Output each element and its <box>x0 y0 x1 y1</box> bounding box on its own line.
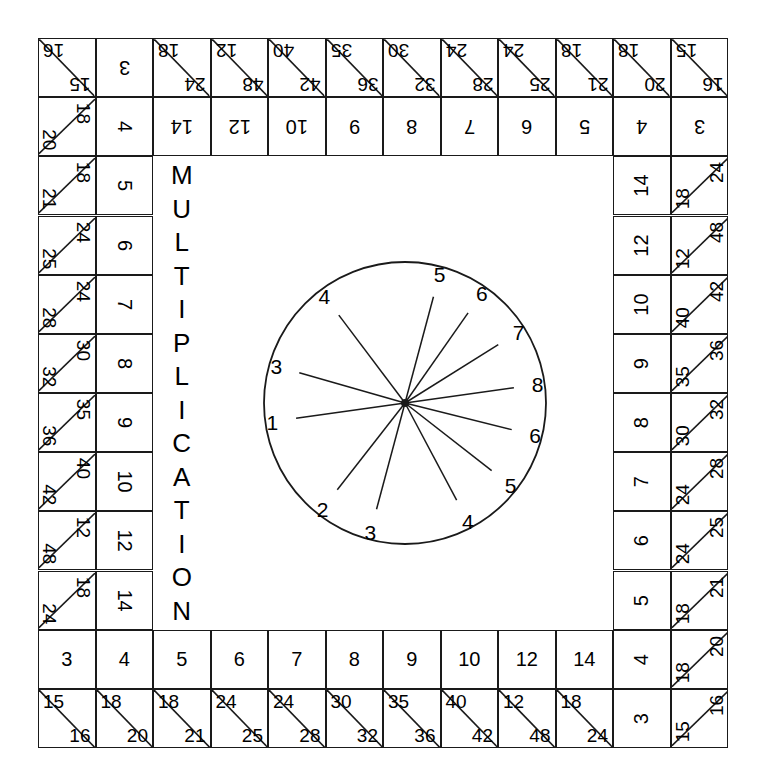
title-letter: C <box>172 430 191 456</box>
bottom-row-split-cell: 1824 <box>556 689 614 748</box>
cell-value-upper: 18 <box>561 692 582 711</box>
left-inner-column-cell: 8 <box>96 334 154 393</box>
cell-value: 6 <box>613 513 670 569</box>
cell-value: 9 <box>327 98 383 155</box>
title-letter: I <box>178 397 185 423</box>
cell-value: 4 <box>97 631 153 688</box>
title-letter: P <box>173 330 190 356</box>
top-row-split-cell: 4240 <box>268 38 326 97</box>
spinner-label: 3 <box>270 356 282 377</box>
cell-value: 14 <box>154 98 210 155</box>
cell-value-lower: 24 <box>707 162 726 183</box>
left-column-split-cell: 1820 <box>38 97 96 156</box>
cell-value: 14 <box>613 158 670 214</box>
bottom-row-split-cell: 2428 <box>268 689 326 748</box>
title-letter: I <box>178 531 185 557</box>
bottom-right-corner-cell: 1516 <box>671 689 729 748</box>
cell-value-upper: 35 <box>388 692 409 711</box>
cell-value-upper: 18 <box>673 662 692 683</box>
right-column-split-cell: 3536 <box>671 334 729 393</box>
cell-value-lower: 20 <box>40 129 59 150</box>
right-inner-column-cell: 5 <box>613 571 671 630</box>
bottom-inner-row-cell: 12 <box>498 630 556 689</box>
left-column-split-cell: 1248 <box>38 511 96 570</box>
spinner-label: 1 <box>267 411 279 432</box>
top-inner-row-cell: 3 <box>671 97 729 156</box>
cell-value: 4 <box>613 631 670 687</box>
cell-value: 12 <box>212 98 268 155</box>
cell-value: 10 <box>96 454 153 510</box>
left-column-split-cell: 1824 <box>38 571 96 630</box>
cell-value-lower: 32 <box>40 366 59 387</box>
title-letter: O <box>172 564 192 590</box>
cell-value: 8 <box>96 336 153 392</box>
left-inner-column-cell: 6 <box>96 216 154 275</box>
cell-value-upper: 24 <box>184 75 205 94</box>
cell-value-lower: 48 <box>40 544 59 565</box>
right-column-split-cell: 1821 <box>671 571 729 630</box>
cell-value: 4 <box>614 98 670 155</box>
cell-value-upper: 24 <box>216 692 237 711</box>
spinner-wheel[interactable]: 567865432134 <box>260 258 550 548</box>
cell-value-lower: 40 <box>273 41 294 60</box>
bottom-row-split-cell: 4042 <box>441 689 499 748</box>
cell-value: 7 <box>96 276 153 332</box>
cell-value-lower: 42 <box>40 484 59 505</box>
bottom-inner-row-cell: 10 <box>441 630 499 689</box>
cell-value-upper: 35 <box>673 366 692 387</box>
cell-value-lower: 24 <box>503 41 524 60</box>
top-row-split-cell: 3230 <box>383 38 441 97</box>
cell-value-upper: 40 <box>74 458 93 479</box>
cell-value-upper: 18 <box>101 692 122 711</box>
left-inner-column-cell: 4 <box>96 97 154 156</box>
right-column-split-cell: 1820 <box>671 630 729 689</box>
top-row-split-cell: 2418 <box>153 38 211 97</box>
spinner-label: 3 <box>364 522 376 543</box>
cell-value: 12 <box>499 631 555 688</box>
left-column-split-cell: 3536 <box>38 393 96 452</box>
bottom-row-split-cell: 1248 <box>498 689 556 748</box>
cell-value: 9 <box>613 336 670 392</box>
right-inner-column-cell: 14 <box>613 156 671 215</box>
cell-value-upper: 28 <box>472 75 493 94</box>
cell-value: 10 <box>269 98 325 155</box>
bottom-inner-row-cell: 5 <box>153 630 211 689</box>
cell-value-lower: 32 <box>707 399 726 420</box>
cell-value: 5 <box>613 572 670 628</box>
cell-value: 10 <box>442 631 498 688</box>
left-column-split-cell: 4042 <box>38 452 96 511</box>
cell-value: 7 <box>613 454 670 510</box>
cell-value-lower: 21 <box>184 726 205 745</box>
top-inner-row-cell: 6 <box>498 97 556 156</box>
title-letter: N <box>172 598 191 624</box>
cell-value-lower: 18 <box>618 41 639 60</box>
spinner-label: 8 <box>532 374 544 395</box>
right-inner-column-cell: 8 <box>613 393 671 452</box>
cell-value: 5 <box>154 631 210 688</box>
multiplication-game-board: 1516324184812424036353230282425242118201… <box>38 38 728 748</box>
right-column-split-cell: 2425 <box>671 511 729 570</box>
spinner-label: 5 <box>434 263 446 284</box>
cell-value: 9 <box>384 631 440 688</box>
cell-value: 6 <box>212 631 268 688</box>
top-row-split-cell: 3635 <box>326 38 384 97</box>
cell-value-upper: 18 <box>673 189 692 210</box>
left-column-split-cell: 3032 <box>38 334 96 393</box>
top-row-split-cell: 2018 <box>613 38 671 97</box>
top-row-split-cell: 2524 <box>498 38 556 97</box>
left-inner-column-cell: 14 <box>96 571 154 630</box>
bottom-inner-row-cell: 4 <box>96 630 154 689</box>
cell-value-upper: 24 <box>74 221 93 242</box>
top-left-corner-cell: 1516 <box>38 38 96 97</box>
right-inner-column-cell: 10 <box>613 275 671 334</box>
cell-value-lower: 28 <box>299 726 320 745</box>
cell-value-lower: 36 <box>40 425 59 446</box>
cell-value-upper: 42 <box>299 75 320 94</box>
cell-value-lower: 20 <box>707 635 726 656</box>
cell-value-lower: 48 <box>707 221 726 242</box>
bottom-row-split-cell: 3032 <box>326 689 384 748</box>
cell-value-lower: 35 <box>331 41 352 60</box>
top-inner-row-cell: 8 <box>383 97 441 156</box>
cell-value-upper: 18 <box>74 576 93 597</box>
cell-value: 8 <box>384 98 440 155</box>
